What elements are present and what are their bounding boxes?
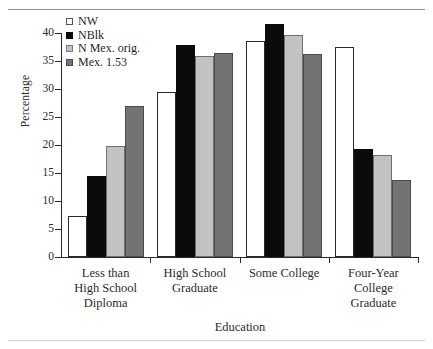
bar-n-mex-orig-1[interactable] <box>195 56 214 257</box>
legend-label: Mex. 1.53 <box>78 56 127 70</box>
y-tick-label: 20 <box>6 139 54 151</box>
x-tick-mark <box>418 257 419 263</box>
legend-label: NW <box>78 15 98 29</box>
legend-label: NBlk <box>78 29 104 43</box>
page-rule-top <box>8 9 425 10</box>
bar-nw-2[interactable] <box>246 41 265 257</box>
bar-nw-0[interactable] <box>68 216 87 257</box>
legend-label: N Mex. orig. <box>78 42 140 56</box>
x-category-label-line: Less than <box>61 266 150 281</box>
bar-mex-1-53-1[interactable] <box>214 53 233 257</box>
bar-nblk-2[interactable] <box>265 24 284 257</box>
x-category-label-line: Graduate <box>150 281 239 296</box>
legend-swatch-icon <box>66 18 73 25</box>
y-tick-label: 35 <box>6 55 54 67</box>
bar-group <box>329 33 418 257</box>
chart-legend: NWNBlkN Mex. orig.Mex. 1.53 <box>66 15 140 69</box>
x-category-label-line: Four-Year <box>329 266 418 281</box>
bar-mex-1-53-3[interactable] <box>392 180 411 257</box>
x-axis-title: Education <box>61 320 419 335</box>
x-category-label-line: College <box>329 281 418 296</box>
legend-item-n-mex-orig[interactable]: N Mex. orig. <box>66 42 140 56</box>
bar-n-mex-orig-2[interactable] <box>284 35 303 257</box>
bar-group <box>150 33 239 257</box>
bar-mex-1-53-0[interactable] <box>125 106 144 257</box>
bar-mex-1-53-2[interactable] <box>303 54 322 257</box>
x-category-label: Some College <box>240 266 329 281</box>
y-tick-label: 25 <box>6 111 54 123</box>
x-category-label: Less thanHigh SchoolDiploma <box>61 266 150 311</box>
bar-nblk-1[interactable] <box>176 45 195 257</box>
legend-swatch-icon <box>66 32 73 39</box>
legend-item-mex-1-53[interactable]: Mex. 1.53 <box>66 56 140 70</box>
legend-swatch-icon <box>66 45 73 52</box>
x-category-label-line: Graduate <box>329 296 418 311</box>
x-tick-mark <box>150 257 151 263</box>
bar-nblk-3[interactable] <box>354 149 373 257</box>
x-tick-mark <box>329 257 330 263</box>
y-tick-label: 5 <box>6 223 54 235</box>
x-category-label: Four-YearCollegeGraduate <box>329 266 418 311</box>
x-category-label-line: High School <box>61 281 150 296</box>
bar-n-mex-orig-3[interactable] <box>373 155 392 257</box>
bar-chart-figure: Percentage 0510152025303540 Less thanHig… <box>0 0 433 349</box>
bar-nw-3[interactable] <box>335 47 354 257</box>
y-axis-tick-labels: 0510152025303540 <box>0 0 54 349</box>
y-tick-label: 10 <box>6 195 54 207</box>
y-tick-label: 40 <box>6 27 54 39</box>
bar-nw-1[interactable] <box>157 92 176 257</box>
bar-n-mex-orig-0[interactable] <box>106 146 125 257</box>
legend-item-nw[interactable]: NW <box>66 15 140 29</box>
x-category-label: High SchoolGraduate <box>150 266 239 296</box>
x-category-label-line: Some College <box>240 266 329 281</box>
legend-item-nblk[interactable]: NBlk <box>66 29 140 43</box>
bar-group <box>240 33 329 257</box>
y-tick-label: 0 <box>6 251 54 263</box>
x-category-label-line: High School <box>150 266 239 281</box>
page-rule-bottom <box>8 340 425 341</box>
legend-swatch-icon <box>66 59 73 66</box>
bar-nblk-0[interactable] <box>87 176 106 257</box>
x-tick-mark <box>240 257 241 263</box>
x-category-label-line: Diploma <box>61 296 150 311</box>
y-tick-label: 30 <box>6 83 54 95</box>
y-tick-label: 15 <box>6 167 54 179</box>
